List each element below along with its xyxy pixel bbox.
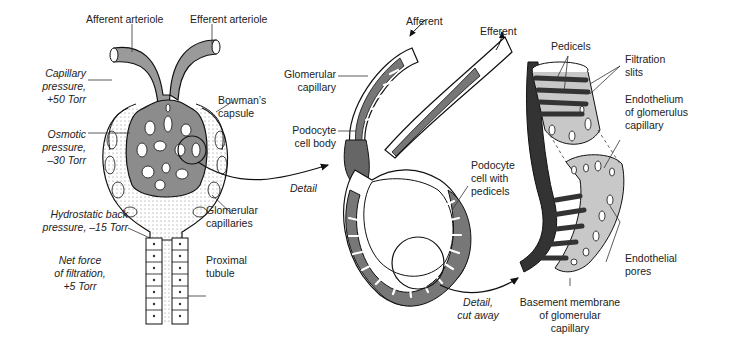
podocyte-body-line2: cell body	[270, 137, 336, 150]
label-net-force-of-filtration: Net force of filtration, +5 Torr	[40, 254, 120, 293]
endothelium-line2: of glomerulus	[625, 106, 688, 119]
bowmans-line2: capsule	[218, 107, 266, 120]
label-basement-membrane: Basement membrane of glomerular capillar…	[510, 296, 630, 335]
label-osmotic-pressure: Osmotic pressure, –30 Torr	[20, 128, 86, 167]
proximal-line2: tubule	[206, 267, 247, 280]
label-endothelium: Endothelium of glomerulus capillary	[625, 93, 688, 132]
label-podocyte-with-pedicels: Podocyte cell with pedicels	[471, 159, 515, 198]
detail-cutaway-line2: cut away	[448, 309, 508, 322]
filtration-slits-line2: slits	[625, 66, 665, 79]
right-filtration-detail	[520, 56, 624, 286]
endothelial-pores-line2: pores	[625, 265, 677, 278]
label-pedicels: Pedicels	[551, 40, 591, 53]
basement-line2: of glomerular	[510, 309, 630, 322]
afferent-arteriole-shape	[114, 47, 170, 105]
hydrostatic-line2: pressure, –15 Torr	[20, 221, 128, 234]
label-glomerular-capillaries: Glomerular capillaries	[206, 204, 258, 230]
label-proximal-tubule: Proximal tubule	[206, 254, 247, 280]
glomerulus-diagram	[0, 0, 731, 346]
hydrostatic-line1: Hydrostatic back	[20, 208, 128, 221]
glomerular-capillary-line2: capillary	[270, 81, 336, 94]
proximal-line1: Proximal	[206, 254, 247, 267]
net-force-line3: +5 Torr	[40, 280, 120, 293]
glomerular-capillary-line1: Glomerular	[270, 68, 336, 81]
label-filtration-slits: Filtration slits	[625, 53, 665, 79]
label-afferent: Afferent	[406, 15, 443, 28]
capillary-pressure-line3: +50 Torr	[20, 93, 86, 106]
label-detail: Detail	[290, 182, 317, 195]
label-hydrostatic-back-pressure: Hydrostatic back pressure, –15 Torr	[20, 208, 128, 234]
filtration-slits-line1: Filtration	[625, 53, 665, 66]
osmotic-pressure-line2: pressure,	[20, 141, 86, 154]
basement-line1: Basement membrane	[510, 296, 630, 309]
basement-line3: capillary	[510, 322, 630, 335]
detail-cutaway-line1: Detail,	[448, 296, 508, 309]
bowmans-line1: Bowman’s	[218, 94, 266, 107]
efferent-arteriole-shape	[170, 40, 216, 100]
capillary-pressure-line1: Capillary	[20, 67, 86, 80]
net-force-line1: Net force	[40, 254, 120, 267]
label-detail-cut-away: Detail, cut away	[448, 296, 508, 322]
label-glomerular-capillary: Glomerular capillary	[270, 68, 336, 94]
endothelium-line3: capillary	[625, 119, 688, 132]
glomerular-capillaries-line1: Glomerular	[206, 204, 258, 217]
label-podocyte-cell-body: Podocyte cell body	[270, 124, 336, 150]
podocyte-body-line1: Podocyte	[270, 124, 336, 137]
label-capillary-pressure: Capillary pressure, +50 Torr	[20, 67, 86, 106]
net-force-line2: of filtration,	[40, 267, 120, 280]
label-efferent-arteriole: Efferent arteriole	[190, 13, 267, 26]
glomerular-capillaries-line2: capillaries	[206, 217, 258, 230]
endothelial-pores-line1: Endothelial	[625, 252, 677, 265]
label-afferent-arteriole: Afferent arteriole	[86, 13, 163, 26]
podocyte-pedicels-line1: Podocyte	[471, 159, 515, 172]
label-bowmans-capsule: Bowman’s capsule	[218, 94, 266, 120]
podocyte-pedicels-line2: cell with	[471, 172, 515, 185]
podocyte-pedicels-line3: pedicels	[471, 185, 515, 198]
label-efferent: Efferent	[480, 25, 517, 38]
osmotic-pressure-line1: Osmotic	[20, 128, 86, 141]
proximal-tubule-shape	[146, 238, 188, 324]
endothelium-line1: Endothelium	[625, 93, 688, 106]
osmotic-pressure-line3: –30 Torr	[20, 154, 86, 167]
label-endothelial-pores: Endothelial pores	[625, 252, 677, 278]
capillary-pressure-line2: pressure,	[20, 80, 86, 93]
